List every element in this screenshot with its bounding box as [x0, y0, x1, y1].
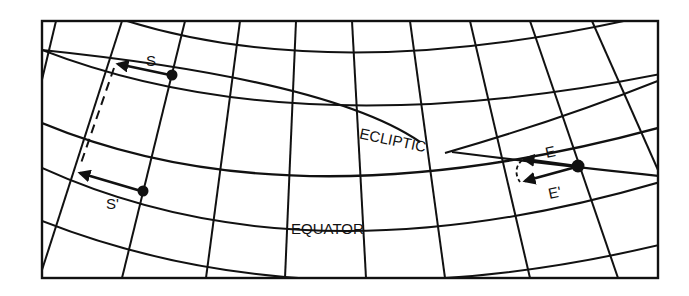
meridian-line — [592, 21, 658, 170]
e-prime-arrow — [525, 167, 576, 181]
parallel-line — [100, 8, 680, 53]
label-s-prime: S' — [106, 195, 119, 212]
ecliptic — [42, 50, 660, 176]
meridian-line — [530, 21, 618, 278]
e-dashed-shift — [516, 160, 522, 182]
star-s-motion — [80, 64, 170, 191]
label-equator: EQUATOR — [291, 220, 364, 237]
coordinate-grid — [40, 8, 680, 281]
s-dashed-shift — [80, 68, 114, 166]
equinox-e-dot — [572, 160, 585, 173]
meridian-line — [470, 21, 530, 278]
meridian-line — [352, 21, 366, 278]
star-s-dot — [167, 70, 178, 81]
equinox-e-motion — [516, 159, 576, 182]
star-s-prime-dot — [138, 186, 149, 197]
meridian-line — [206, 21, 240, 278]
label-e-prime: E' — [546, 183, 562, 202]
meridian-line — [285, 21, 296, 278]
label-s: S — [146, 52, 156, 69]
label-ecliptic: ECLIPTIC — [358, 125, 428, 156]
parallel-line — [42, 50, 680, 106]
label-e: E — [543, 142, 556, 161]
precession-diagram: S S' E E' ECLIPTIC EQUATOR — [0, 0, 689, 296]
